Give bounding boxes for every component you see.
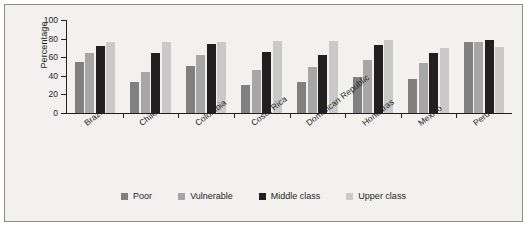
legend-item-middle-class[interactable]: Middle class: [259, 191, 321, 201]
bar-vulnerable-costa-rica: [252, 70, 261, 113]
bar-vulnerable-dominican-republic: [308, 67, 317, 114]
bar-middle-class-chile: [151, 53, 160, 113]
legend-label: Upper class: [358, 191, 406, 201]
bar-vulnerable-colombia: [196, 55, 205, 113]
bar-vulnerable-honduras: [363, 60, 372, 113]
chart-legend: PoorVulnerableMiddle classUpper class: [0, 191, 527, 201]
legend-swatch-icon: [178, 193, 185, 200]
bar-vulnerable-peru: [474, 42, 483, 113]
bar-poor-peru: [464, 42, 473, 113]
bar-vulnerable-brazil: [85, 53, 94, 113]
legend-item-upper-class[interactable]: Upper class: [346, 191, 406, 201]
legend-label: Middle class: [271, 191, 321, 201]
bar-upper-class-mexico: [440, 48, 449, 113]
bar-middle-class-peru: [485, 40, 494, 113]
legend-swatch-icon: [346, 193, 353, 200]
legend-label: Poor: [133, 191, 152, 201]
bar-upper-class-brazil: [106, 42, 115, 113]
legend-item-poor[interactable]: Poor: [121, 191, 152, 201]
bar-poor-mexico: [408, 79, 417, 113]
bar-poor-colombia: [186, 66, 195, 113]
legend-label: Vulnerable: [190, 191, 233, 201]
legend-item-vulnerable[interactable]: Vulnerable: [178, 191, 233, 201]
bar-vulnerable-mexico: [419, 63, 428, 113]
bar-middle-class-brazil: [96, 46, 105, 113]
legend-swatch-icon: [259, 193, 266, 200]
bar-poor-costa-rica: [241, 85, 250, 113]
bar-upper-class-peru: [495, 47, 504, 113]
chart-figure: Percentage 020406080100 BrazilChileColom…: [0, 0, 527, 226]
legend-swatch-icon: [121, 193, 128, 200]
bar-poor-brazil: [75, 62, 84, 113]
bar-poor-dominican-republic: [297, 82, 306, 113]
bar-vulnerable-chile: [141, 72, 150, 113]
bar-upper-class-chile: [162, 42, 171, 113]
bar-poor-chile: [130, 82, 139, 113]
